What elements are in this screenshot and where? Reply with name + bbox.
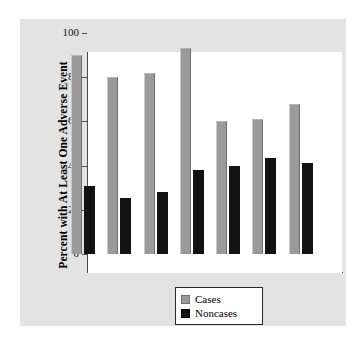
bar-group — [71, 33, 107, 254]
bar-cases — [107, 77, 118, 254]
legend-swatch-icon — [181, 295, 190, 304]
bar-noncases — [229, 166, 240, 254]
bar-group — [252, 33, 288, 254]
bar-cases — [216, 121, 227, 254]
bar-noncases — [265, 158, 276, 254]
bar-noncases — [157, 192, 168, 254]
bar-cases — [289, 104, 300, 254]
bar-group — [107, 33, 143, 254]
bar-noncases — [84, 186, 95, 255]
bar-noncases — [302, 163, 313, 254]
bar-group — [289, 33, 325, 254]
legend: CasesNoncases — [175, 287, 263, 325]
figure: Percent with At Least One Adverse Event … — [0, 0, 363, 344]
bar-group — [216, 33, 252, 254]
legend-item: Noncases — [181, 306, 256, 320]
chart-panel: Percent with At Least One Adverse Event … — [20, 19, 346, 326]
bar-noncases — [120, 198, 131, 254]
y-tick-0: 0 — [20, 254, 81, 255]
bar-cases — [71, 55, 82, 254]
bar-group — [180, 33, 216, 254]
legend-label: Noncases — [195, 308, 237, 319]
bar-cases — [252, 119, 263, 254]
bar-noncases — [193, 170, 204, 254]
bar-cases — [180, 48, 191, 254]
bar-cases — [144, 73, 155, 254]
legend-swatch-icon — [181, 309, 190, 318]
legend-label: Cases — [195, 294, 221, 305]
legend-item: Cases — [181, 292, 256, 306]
bar-group — [144, 33, 180, 254]
